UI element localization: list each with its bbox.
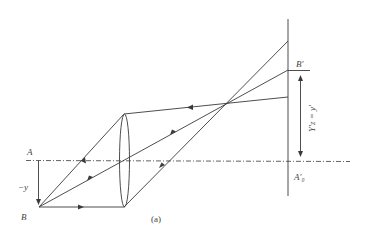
optical-axis [26, 161, 350, 162]
object-arrowhead [36, 199, 41, 205]
ray-lower-out [124, 41, 288, 207]
label-b: B [21, 212, 27, 222]
image-height-arrowhead-top [298, 75, 303, 81]
label-a0-prime: A'₀ [293, 172, 305, 182]
image-height-arrowhead-bottom [298, 151, 303, 157]
ray-lower-in-arrow [78, 205, 84, 210]
figure-caption: (a) [151, 214, 161, 224]
ray-upper-out [124, 97, 288, 114]
ray-lower-out-arrow [159, 163, 165, 169]
optics-diagram: A B −y B' A'₀ Y'z = y' (a) [0, 0, 367, 236]
ray-upper-out-arrow [187, 105, 193, 111]
ray-central [39, 70, 288, 207]
label-a: A [26, 147, 33, 157]
label-image-height: Y'z = y' [307, 104, 317, 132]
label-neg-y: −y [18, 182, 28, 192]
label-b-prime: B' [296, 59, 304, 69]
